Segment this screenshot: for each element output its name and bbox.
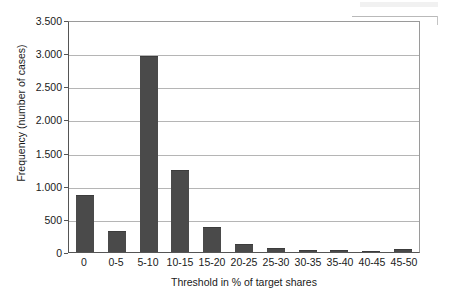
x-axis-tick-label: 15-20 (196, 257, 228, 268)
x-axis-tick-labels: 00-55-1010-1515-2020-2525-3030-3535-4040… (68, 257, 420, 268)
y-axis-tick-label: 1.000 (4, 182, 62, 193)
x-axis-title: Threshold in % of target shares (68, 276, 420, 288)
bar-slot (69, 22, 101, 252)
bar-slot (260, 22, 292, 252)
bar[interactable] (108, 231, 126, 252)
bar[interactable] (330, 250, 348, 252)
y-axis-tick-label: 2.500 (4, 82, 62, 93)
y-axis-tick-label: 500 (4, 215, 62, 226)
bar-slot (292, 22, 324, 252)
x-axis-tick-label: 0 (68, 257, 100, 268)
bar-slot (133, 22, 165, 252)
bar[interactable] (203, 227, 221, 252)
bar-slot (196, 22, 228, 252)
bar[interactable] (76, 195, 94, 252)
x-axis-tick-label: 25-30 (260, 257, 292, 268)
x-axis-tick-label: 0-5 (100, 257, 132, 268)
x-axis-tick-label: 30-35 (292, 257, 324, 268)
bar-series (69, 22, 419, 252)
y-axis-tick-mark (64, 253, 68, 254)
bar[interactable] (235, 244, 253, 252)
x-axis-tick-label: 10-15 (164, 257, 196, 268)
y-axis-tick-label: 2.000 (4, 115, 62, 126)
bar-slot (387, 22, 419, 252)
bar[interactable] (267, 248, 285, 252)
bar-slot (355, 22, 387, 252)
y-axis-tick-label: 3.500 (4, 16, 62, 27)
bar-slot (164, 22, 196, 252)
x-axis-tick-label: 35-40 (324, 257, 356, 268)
bar[interactable] (299, 250, 317, 252)
x-axis-tick-label: 5-10 (132, 257, 164, 268)
plot-area (68, 21, 420, 253)
bar[interactable] (171, 170, 189, 252)
x-axis-tick-label: 20-25 (228, 257, 260, 268)
bar[interactable] (394, 249, 412, 252)
bar-slot (324, 22, 356, 252)
y-axis-tick-label: 3.000 (4, 49, 62, 60)
bar-slot (228, 22, 260, 252)
x-axis-tick-label: 40-45 (356, 257, 388, 268)
x-axis-tick-label: 45-50 (388, 257, 420, 268)
bar-slot (101, 22, 133, 252)
bar[interactable] (362, 251, 380, 252)
bar[interactable] (140, 56, 158, 252)
chart-figure: 05001.0001.5002.0002.5003.0003.500 Frequ… (0, 0, 451, 299)
y-axis-tick-label: 0 (4, 248, 62, 259)
y-axis-title: Frequency (number of cases) (15, 13, 27, 213)
y-axis-tick-label: 1.500 (4, 149, 62, 160)
